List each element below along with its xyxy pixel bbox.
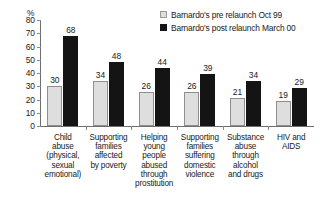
category-label-line: abuse: [40, 142, 86, 151]
category-label-line: abuse: [223, 142, 269, 151]
bar-post-2: [155, 68, 170, 126]
category-label-line: AIDS: [268, 142, 314, 151]
y-tick-label-20: 20: [20, 96, 35, 104]
x-tick-4: [223, 126, 224, 130]
bar-value-post-4: 34: [241, 71, 266, 80]
category-label-line: Substance: [223, 133, 269, 142]
y-tick-0: [37, 126, 41, 127]
legend-item-pre-relaunch: Barnardo's pre relaunch Oct 99: [160, 9, 296, 20]
category-label-0: Childabuse(physical,sexualemotional): [40, 133, 86, 179]
legend-label-pre: Barnardo's pre relaunch Oct 99: [171, 10, 282, 20]
x-tick-1: [86, 126, 87, 130]
bar-value-post-2: 44: [150, 58, 175, 67]
y-tick-label-70: 70: [20, 29, 35, 37]
bar-pre-1: [93, 81, 108, 126]
category-label-line: families: [86, 142, 132, 151]
bar-value-post-5: 29: [287, 78, 312, 87]
category-label-line: alcohol: [223, 161, 269, 170]
bar-pre-2: [139, 92, 154, 126]
category-label-line: sexual: [40, 161, 86, 170]
category-label-4: Substanceabusethroughalcoholand drugs: [223, 133, 269, 179]
bar-pre-5: [276, 101, 291, 126]
category-label-line: abused: [131, 161, 177, 170]
category-label-line: through: [131, 170, 177, 179]
bar-pre-0: [47, 86, 62, 126]
bar-post-1: [109, 62, 124, 126]
category-label-line: violence: [177, 170, 223, 179]
x-tick-3: [177, 126, 178, 130]
y-tick-40: [37, 73, 41, 74]
y-tick-20: [37, 100, 41, 101]
bar-value-post-0: 68: [58, 26, 83, 35]
bar-post-5: [292, 88, 307, 126]
x-tick-5: [268, 126, 269, 130]
y-tick-label-80: 80: [20, 16, 35, 24]
category-label-line: young: [131, 142, 177, 151]
y-tick-label-50: 50: [20, 56, 35, 64]
y-tick-50: [37, 60, 41, 61]
category-label-line: prostitution: [131, 179, 177, 188]
category-label-line: Helping: [131, 133, 177, 142]
y-tick-label-0: 0: [20, 122, 35, 130]
legend-item-post-relaunch: Barnardo's post relaunch March 00: [160, 22, 296, 33]
y-tick-80: [37, 20, 41, 21]
category-label-line: (physical,: [40, 151, 86, 160]
category-label-line: and drugs: [223, 170, 269, 179]
bar-chart: Barnardo's pre relaunch Oct 99 Barnardo'…: [0, 0, 334, 198]
category-label-line: HIV and: [268, 133, 314, 142]
category-label-2: Helpingyoungpeopleabusedthroughprostitut…: [131, 133, 177, 188]
category-label-line: Supporting: [177, 133, 223, 142]
bar-post-0: [63, 36, 78, 126]
bar-post-4: [246, 81, 261, 126]
category-label-line: emotional): [40, 170, 86, 179]
bar-value-post-1: 48: [104, 52, 129, 61]
category-label-line: suffering: [177, 151, 223, 160]
category-label-line: domestic: [177, 161, 223, 170]
category-label-line: affected: [86, 151, 132, 160]
bar-pre-3: [184, 92, 199, 126]
category-label-1: Supportingfamiliesaffectedby poverty: [86, 133, 132, 170]
y-tick-label-60: 60: [20, 43, 35, 51]
y-tick-label-40: 40: [20, 69, 35, 77]
category-label-line: through: [223, 151, 269, 160]
category-label-line: Child: [40, 133, 86, 142]
y-tick-60: [37, 47, 41, 48]
category-label-line: families: [177, 142, 223, 151]
y-tick-label-10: 10: [20, 109, 35, 117]
category-label-line: people: [131, 151, 177, 160]
legend-swatch-pre-icon: [160, 11, 167, 18]
bar-value-post-3: 39: [195, 64, 220, 73]
legend-swatch-post-icon: [160, 24, 167, 31]
x-tick-2: [131, 126, 132, 130]
category-label-line: by poverty: [86, 161, 132, 170]
category-label-line: Supporting: [86, 133, 132, 142]
y-tick-70: [37, 33, 41, 34]
y-tick-label-30: 30: [20, 82, 35, 90]
category-label-3: Supportingfamiliessufferingdomesticviole…: [177, 133, 223, 179]
y-tick-10: [37, 113, 41, 114]
legend-label-post: Barnardo's post relaunch March 00: [171, 23, 296, 33]
bar-post-3: [200, 74, 215, 126]
chart-legend: Barnardo's pre relaunch Oct 99 Barnardo'…: [160, 9, 296, 33]
bar-pre-4: [230, 98, 245, 126]
category-label-5: HIV andAIDS: [268, 133, 314, 151]
y-tick-30: [37, 86, 41, 87]
